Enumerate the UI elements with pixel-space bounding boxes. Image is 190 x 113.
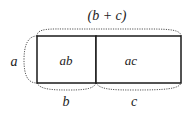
area-model-diagram: (b + c) a ab ac b c (0, 0, 190, 113)
bottom-brace-b (37, 83, 96, 90)
label-ac: ac (125, 53, 138, 68)
bottom-brace-c (96, 83, 181, 90)
left-brace-a (24, 36, 37, 83)
label-b: b (63, 94, 70, 109)
label-ab: ab (60, 53, 74, 68)
region-ac (96, 36, 181, 83)
label-b-plus-c: (b + c) (88, 8, 127, 24)
label-a: a (11, 54, 18, 69)
top-brace-bc (37, 29, 181, 36)
label-c: c (131, 94, 138, 109)
